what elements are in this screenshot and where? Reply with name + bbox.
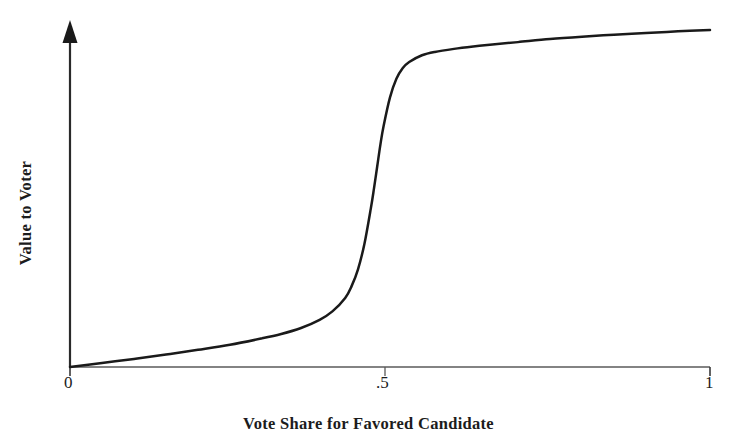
- chart-figure: 0 .5 1 Vote Share for Favored Candidate …: [0, 0, 737, 447]
- x-axis-title: Vote Share for Favored Candidate: [0, 414, 737, 434]
- value-to-voter-curve: [70, 30, 710, 367]
- y-axis-title-container: Value to Voter: [6, 118, 46, 308]
- chart-plot-area: [0, 0, 737, 447]
- x-tick-label-1: 1: [705, 374, 714, 391]
- y-axis-title: Value to Voter: [16, 161, 36, 265]
- x-tick-label-half: .5: [376, 374, 389, 391]
- y-axis-arrowhead: [63, 20, 78, 43]
- x-tick-label-0: 0: [64, 374, 73, 391]
